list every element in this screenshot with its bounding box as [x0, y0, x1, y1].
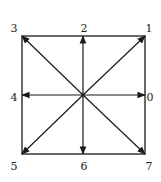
direction-arrow-3	[22, 36, 83, 95]
direction-label-4: 4	[11, 92, 18, 103]
direction-diagram: 01234567	[0, 0, 161, 182]
direction-label-2: 2	[81, 23, 88, 34]
direction-label-7: 7	[146, 161, 153, 172]
direction-arrow-5	[22, 95, 83, 154]
direction-label-1: 1	[146, 23, 153, 34]
direction-label-3: 3	[11, 23, 18, 34]
direction-label-0: 0	[147, 92, 154, 103]
direction-arrow-1	[83, 36, 145, 95]
center-point	[81, 93, 84, 96]
direction-label-5: 5	[11, 161, 18, 172]
direction-label-6: 6	[81, 161, 88, 172]
direction-arrow-7	[83, 95, 145, 154]
